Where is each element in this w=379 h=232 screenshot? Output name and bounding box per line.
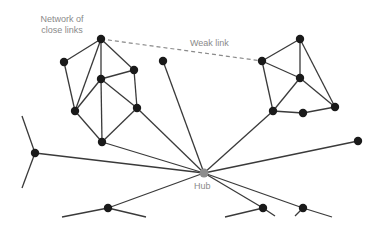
edge-stub bbox=[62, 208, 108, 217]
network-label-line2: close links bbox=[33, 25, 91, 36]
node-P bbox=[31, 149, 39, 157]
node-J bbox=[296, 74, 304, 82]
node-T bbox=[354, 137, 362, 145]
edge-L-M bbox=[273, 111, 303, 113]
edge-C-G bbox=[101, 79, 102, 142]
edge-stub bbox=[22, 116, 35, 153]
node-F bbox=[133, 104, 141, 112]
edge-J-L bbox=[273, 78, 300, 111]
edge-A-E bbox=[75, 39, 101, 111]
edge-I-L bbox=[262, 61, 273, 111]
edge-stub bbox=[303, 208, 332, 217]
edge-Hub-P bbox=[35, 153, 204, 173]
edge-F-G bbox=[102, 108, 137, 142]
weak-link-label: Weak link bbox=[190, 38, 229, 49]
edge-stub bbox=[22, 153, 35, 188]
node-K bbox=[331, 103, 339, 111]
edge-E-G bbox=[75, 111, 102, 142]
edge-Hub-Q bbox=[108, 173, 204, 208]
network-label: Network of close links bbox=[33, 14, 91, 36]
edge-D-F bbox=[134, 70, 137, 108]
edge-A-B bbox=[64, 39, 101, 62]
node-Q bbox=[104, 204, 112, 212]
edge-stub bbox=[225, 208, 263, 217]
edge-Hub-T bbox=[204, 141, 358, 173]
edge-layer bbox=[22, 39, 358, 217]
edge-stub bbox=[108, 208, 146, 217]
network-label-line1: Network of bbox=[33, 14, 91, 25]
edge-H-I bbox=[262, 39, 300, 61]
hub-node bbox=[200, 169, 209, 178]
weak-link-edge bbox=[101, 39, 262, 61]
node-L bbox=[269, 107, 277, 115]
edge-C-E bbox=[75, 79, 101, 111]
node-G bbox=[98, 138, 106, 146]
weak-link-layer bbox=[101, 39, 262, 61]
edge-C-F bbox=[101, 79, 137, 108]
edge-C-D bbox=[101, 70, 134, 79]
edge-M-K bbox=[303, 107, 335, 113]
node-E bbox=[71, 107, 79, 115]
node-I bbox=[258, 57, 266, 65]
node-B bbox=[60, 58, 68, 66]
edge-Hub-L bbox=[204, 111, 273, 173]
node-R bbox=[259, 204, 267, 212]
edge-B-E bbox=[64, 62, 75, 111]
edge-I-J bbox=[262, 61, 300, 78]
node-C bbox=[97, 75, 105, 83]
edge-A-D bbox=[101, 39, 134, 70]
edge-Hub-N bbox=[163, 61, 204, 173]
node-H bbox=[296, 35, 304, 43]
hub-label: Hub bbox=[194, 181, 211, 192]
node-D bbox=[130, 66, 138, 74]
node-A bbox=[97, 35, 105, 43]
node-M bbox=[299, 109, 307, 117]
edge-H-K bbox=[300, 39, 335, 107]
node-S bbox=[299, 204, 307, 212]
edge-J-K bbox=[300, 78, 335, 107]
node-N bbox=[159, 57, 167, 65]
